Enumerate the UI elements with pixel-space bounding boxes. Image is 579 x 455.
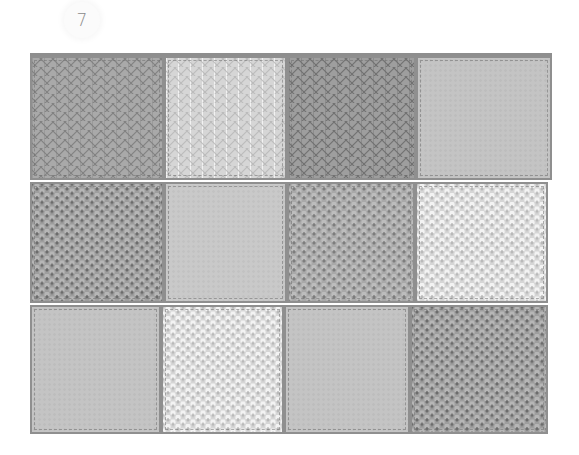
swatch-r1c1-stockinette-mid xyxy=(30,56,164,180)
blanket-row-2 xyxy=(30,182,548,303)
swatch-r1c2-stockinette-light xyxy=(164,56,287,180)
blanket-row-3 xyxy=(30,305,548,434)
swatch-r3c3-smooth xyxy=(284,305,410,434)
swatch-r3c4-purl-dark xyxy=(410,305,548,434)
page-number-badge: 7 xyxy=(64,2,100,38)
swatch-r3c1-smooth xyxy=(30,305,161,434)
knitted-blanket-illustration xyxy=(30,53,552,434)
swatch-r3c2-purl-light xyxy=(161,305,284,434)
swatch-r2c3-purl-mid xyxy=(287,182,415,303)
page-number: 7 xyxy=(77,10,88,30)
swatch-r2c2-smooth xyxy=(164,182,287,303)
swatch-r1c4-smooth xyxy=(416,56,552,180)
swatch-r1c3-stockinette-dark xyxy=(287,56,416,180)
swatch-r2c1-purl-dark xyxy=(30,182,164,303)
blanket-row-1 xyxy=(30,53,552,180)
swatch-r2c4-purl-light xyxy=(415,182,548,303)
